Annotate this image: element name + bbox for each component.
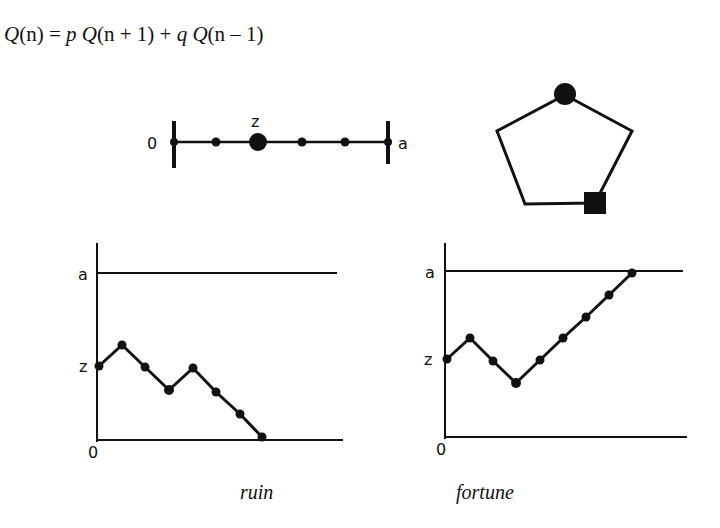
label-zero: 0 — [147, 134, 157, 153]
line-walk-diagram: 0 a z — [147, 112, 408, 168]
label-a: a — [425, 263, 435, 282]
label-a: a — [78, 265, 88, 284]
ruin-chart: a z 0 ruin — [78, 243, 343, 503]
node-dot — [341, 138, 350, 147]
node-dot — [298, 138, 307, 147]
caption-fortune: fortune — [456, 481, 514, 504]
node-dot — [170, 138, 178, 146]
fortune-chart: a z 0 fortune — [424, 243, 687, 504]
caption-ruin: ruin — [240, 481, 273, 503]
start-node — [249, 133, 267, 151]
walk-path — [99, 345, 262, 437]
label-zero: 0 — [436, 440, 446, 459]
label-a: a — [398, 134, 408, 153]
pentagon-shape — [497, 95, 632, 204]
walk-points — [443, 269, 637, 389]
node-dot — [384, 138, 392, 146]
end-square-marker — [584, 192, 606, 214]
label-z: z — [79, 357, 87, 376]
label-z: z — [251, 112, 259, 131]
label-zero: 0 — [88, 443, 98, 462]
pentagon-walk-diagram — [497, 83, 632, 214]
node-dot — [212, 138, 221, 147]
label-z: z — [424, 350, 432, 369]
diagram-canvas: 0 a z a z 0 ruin a z — [0, 0, 720, 528]
start-circle-marker — [554, 83, 576, 105]
walk-points — [95, 341, 267, 442]
walk-path — [447, 273, 632, 383]
